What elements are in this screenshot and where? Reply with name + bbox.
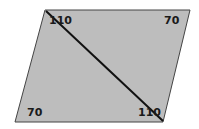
angle-bottom-right: 110 xyxy=(138,106,161,119)
angle-bottom-left: 70 xyxy=(27,106,43,119)
angle-top-right: 70 xyxy=(164,14,180,27)
angle-top-left: 110 xyxy=(49,14,72,27)
parallelogram-diagram: 110 70 70 110 xyxy=(0,0,199,129)
